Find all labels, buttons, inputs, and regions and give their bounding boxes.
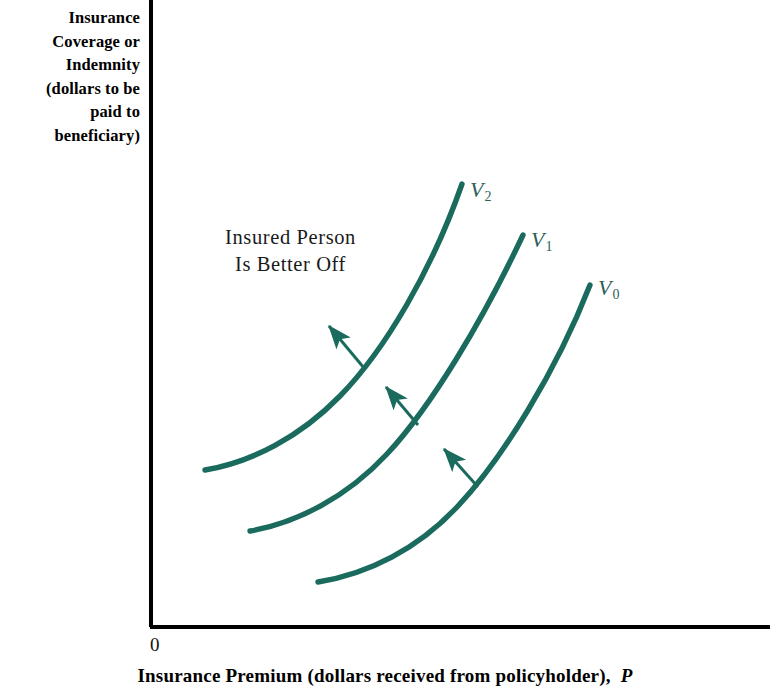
- plot-canvas: [0, 0, 770, 688]
- curve-label-v2-letter: V: [470, 177, 483, 202]
- curve-label-v0: V0: [598, 275, 618, 301]
- origin-label: 0: [150, 634, 160, 656]
- curve-label-v0-letter: V: [598, 275, 611, 300]
- indifference-curve-figure: Insurance Coverage or Indemnity (dollars…: [0, 0, 770, 688]
- x-axis-title: Insurance Premium (dollars received from…: [0, 665, 770, 687]
- indifference-curve-v1: [250, 235, 523, 531]
- x-axis-title-text: Insurance Premium (dollars received from…: [137, 665, 610, 686]
- annotation-line: Insured Person: [188, 224, 393, 251]
- curve-label-v1-subscript: 1: [545, 239, 552, 254]
- curve-label-v1-letter: V: [531, 227, 544, 252]
- direction-arrow-3: [444, 449, 478, 487]
- annotation-insured-better-off: Insured Person Is Better Off: [188, 224, 393, 278]
- x-axis-title-symbol: P: [611, 665, 633, 686]
- curve-label-v0-subscript: 0: [612, 287, 619, 302]
- direction-arrow-2: [386, 387, 418, 425]
- curve-label-v1: V1: [531, 227, 551, 253]
- direction-arrow-1: [329, 326, 364, 368]
- indifference-curve-v0: [318, 285, 590, 582]
- curve-label-v2-subscript: 2: [484, 189, 491, 204]
- curve-label-v2: V2: [470, 177, 490, 203]
- annotation-line: Is Better Off: [188, 251, 393, 278]
